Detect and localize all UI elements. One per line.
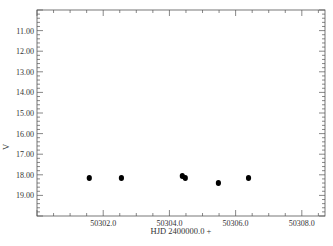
data-point [119,175,124,181]
y-tick-label: 18.00 [16,171,34,180]
y-tick-label: 14.00 [16,88,34,97]
light-curve-chart: 11.0012.0013.0014.0015.0016.0017.0018.00… [0,0,333,246]
data-point [87,175,92,181]
y-axis-label: V [1,143,11,150]
data-points [87,173,251,186]
x-tick-label: 50302.0 [90,219,116,228]
y-tick-labels: 11.0012.0013.0014.0015.0016.0017.0018.00… [16,27,34,201]
y-tick-label: 13.00 [16,68,34,77]
y-tick-label: 19.00 [16,191,34,200]
axis-ticks [37,10,325,216]
y-tick-label: 15.00 [16,109,34,118]
x-axis-label: HJD 2400000.0 + [151,226,212,236]
y-tick-label: 16.00 [16,130,34,139]
data-point [246,175,251,181]
x-tick-label: 50308.0 [289,219,315,228]
y-tick-label: 12.00 [16,47,34,56]
y-tick-label: 17.00 [16,150,34,159]
data-point [183,175,188,181]
x-tick-label: 50306.0 [223,219,249,228]
plot-frame [37,10,325,216]
y-tick-label: 11.00 [16,27,34,36]
data-point [216,180,221,186]
